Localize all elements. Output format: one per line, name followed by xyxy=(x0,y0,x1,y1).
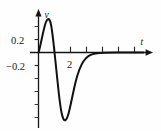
y-axis-title: v xyxy=(45,10,50,20)
plot-canvas: v t 0.2 −0.2 2 xyxy=(0,0,161,131)
y-axis-arrowhead xyxy=(35,9,41,16)
y-tick-label-negative: −0.2 xyxy=(6,61,25,72)
x-tick-label-2: 2 xyxy=(67,59,72,70)
x-axis-arrowhead xyxy=(146,49,153,55)
velocity-curve xyxy=(39,19,144,120)
y-tick-label-positive: 0.2 xyxy=(11,35,24,46)
velocity-time-figure: v t 0.2 −0.2 2 xyxy=(0,0,161,131)
x-axis-title: t xyxy=(141,37,144,47)
